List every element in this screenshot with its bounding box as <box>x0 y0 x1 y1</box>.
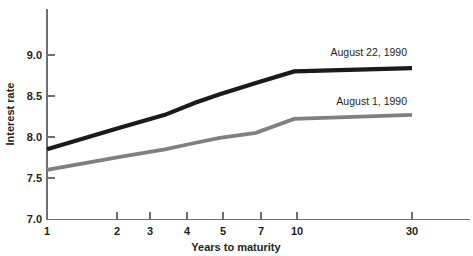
y-tick-label-9-0: 9.0 <box>27 49 42 61</box>
series-label-august-1-1990: August 1, 1990 <box>336 95 407 107</box>
interest-rate-yield-curve-chart: 9.0 8.5 8.0 7.5 7.0 1 2 3 4 5 7 10 30 Ye… <box>0 0 473 256</box>
x-tick-label-7: 7 <box>258 225 264 237</box>
y-axis-ticks <box>47 55 55 178</box>
y-axis-title: Interest rate <box>4 83 16 146</box>
x-axis-title: Years to maturity <box>191 241 281 253</box>
y-tick-label-7-0: 7.0 <box>27 213 42 225</box>
x-tick-label-30: 30 <box>406 225 418 237</box>
x-tick-label-1: 1 <box>44 225 50 237</box>
y-tick-label-8-0: 8.0 <box>27 131 42 143</box>
x-axis-ticks <box>117 212 412 220</box>
series-line-august-1-1990 <box>47 115 412 170</box>
x-tick-label-3: 3 <box>147 225 153 237</box>
chart-plot-area: 9.0 8.5 8.0 7.5 7.0 1 2 3 4 5 7 10 30 Ye… <box>0 0 473 256</box>
x-tick-label-2: 2 <box>114 225 120 237</box>
x-tick-label-10: 10 <box>291 225 303 237</box>
series-label-august-22-1990: August 22, 1990 <box>331 46 408 58</box>
y-tick-label-8-5: 8.5 <box>27 90 42 102</box>
x-tick-label-5: 5 <box>220 225 226 237</box>
y-tick-label-7-5: 7.5 <box>27 172 42 184</box>
x-tick-label-4: 4 <box>184 225 191 237</box>
